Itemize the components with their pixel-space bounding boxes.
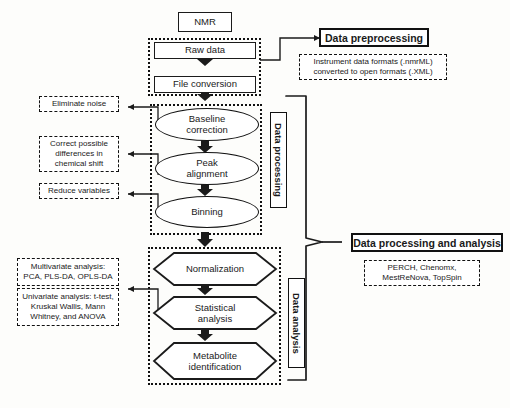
- callout-chemical-shift-line3: chemical shift: [55, 159, 103, 168]
- node-file-conversion[interactable]: File conversion: [154, 76, 256, 93]
- node-baseline-correction[interactable]: Baseline correction: [155, 108, 259, 141]
- node-baseline-correction-line2: correction: [186, 124, 228, 135]
- callout-univariate-line3: Whitney, and ANOVA: [30, 312, 105, 321]
- callout-chemical-shift-line1: Correct possible: [50, 139, 108, 148]
- arrow-peak-to-binning: [196, 183, 214, 197]
- node-statistical-analysis[interactable]: Statistical analysis: [152, 295, 278, 331]
- node-metabolite-identification[interactable]: Metabolite identification: [152, 341, 278, 381]
- callout-multivariate-analysis: Multivariate analysis: PCA, PLS-DA, OPLS…: [17, 258, 119, 286]
- node-nmr[interactable]: NMR: [178, 12, 232, 32]
- note-preprocessing-line1: Instrument data formats (.nmrML): [313, 57, 432, 66]
- arrow-binning-to-normalization: [196, 232, 214, 248]
- node-normalization[interactable]: Normalization: [152, 251, 278, 287]
- callout-chemical-shift: Correct possible differences in chemical…: [39, 136, 119, 172]
- stage-label-data-processing: Data processing: [270, 112, 287, 208]
- callout-eliminate-noise: Eliminate noise: [39, 96, 119, 112]
- note-software-tools: PERCH, Chenomx, MestReNova, TopSpin: [364, 260, 480, 286]
- note-software-line1: PERCH, Chenomx,: [388, 263, 457, 272]
- note-preprocessing: Instrument data formats (.nmrML) convert…: [299, 54, 447, 80]
- note-preprocessing-line2: converted to open formats (.XML): [313, 67, 432, 76]
- callout-reduce-variables: Reduce variables: [39, 183, 119, 199]
- callout-multivariate-line1: Multivariate analysis:: [31, 262, 105, 271]
- diagram-canvas: NMR Raw data File conversion Baseline co…: [0, 0, 510, 408]
- header-data-processing-and-analysis: Data processing and analysis: [351, 233, 503, 252]
- node-binning[interactable]: Binning: [155, 196, 259, 228]
- callout-univariate-line1: Univariate analysis: t-test,: [22, 292, 114, 301]
- note-software-line2: MestReNova, TopSpin: [382, 273, 461, 282]
- stage-label-data-analysis: Data analysis: [288, 278, 305, 368]
- page-ghost-text: [14, 14, 16, 23]
- node-peak-alignment[interactable]: Peak alignment: [155, 152, 259, 185]
- callout-multivariate-line2: PCA, PLS-DA, OPLS-DA: [23, 272, 112, 281]
- header-data-preprocessing: Data preprocessing: [319, 28, 429, 47]
- callout-chemical-shift-line2: differences in: [55, 149, 102, 158]
- node-peak-alignment-line1: Peak: [196, 157, 218, 168]
- node-baseline-correction-line1: Baseline: [189, 113, 225, 124]
- node-peak-alignment-line2: alignment: [186, 168, 227, 179]
- node-raw-data[interactable]: Raw data: [154, 42, 256, 59]
- callout-univariate-analysis: Univariate analysis: t-test, Kruskal Wal…: [17, 288, 119, 326]
- callout-univariate-line2: Kruskal Wallis, Mann: [31, 302, 105, 311]
